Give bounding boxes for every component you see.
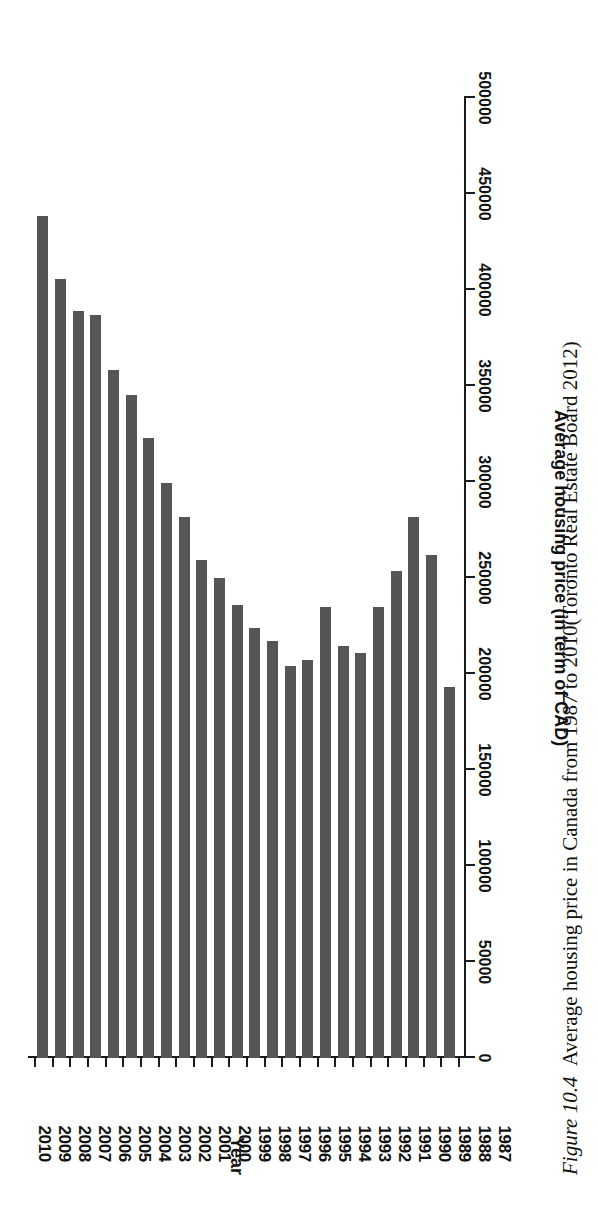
- year-tick: [87, 1058, 89, 1067]
- value-tick-150000: [466, 768, 475, 770]
- figure-caption: Figure 10.4 Average housing price in Can…: [544, 0, 596, 1209]
- bar-row: [405, 98, 423, 1058]
- bar-1990: [391, 571, 402, 1058]
- year-label-1988: 1988: [474, 1070, 494, 1170]
- bar-row: [211, 98, 229, 1058]
- caption-figure-number: Figure 10.4: [558, 1076, 582, 1174]
- figure-page: 2010200920082007200620052004200320022001…: [0, 0, 598, 1209]
- bar-2002: [179, 516, 190, 1057]
- year-label-1995: 1995: [334, 1070, 354, 1170]
- year-label-2004: 2004: [154, 1070, 174, 1170]
- bar-row: [34, 98, 52, 1058]
- bar-1993: [338, 645, 349, 1057]
- value-tick-300000: [466, 480, 475, 482]
- value-axis-labels: 0500001000001500002000002500003000003500…: [475, 98, 545, 1058]
- year-tick: [140, 1058, 142, 1067]
- value-label-0: 0: [475, 1053, 493, 1062]
- year-tick: [158, 1058, 160, 1067]
- bar-row: [281, 98, 299, 1058]
- year-label-2006: 2006: [114, 1070, 134, 1170]
- year-label-1992: 1992: [394, 1070, 414, 1170]
- year-label-1996: 1996: [314, 1070, 334, 1170]
- year-label-1997: 1997: [294, 1070, 314, 1170]
- year-label-1991: 1991: [414, 1070, 434, 1170]
- bar-1997: [267, 641, 278, 1058]
- year-tick: [458, 1058, 460, 1067]
- bar-2000: [214, 578, 225, 1058]
- bar-1988: [426, 555, 437, 1058]
- value-tick-100000: [466, 864, 475, 866]
- value-label-200000: 200000: [475, 647, 493, 700]
- year-tick: [105, 1058, 107, 1067]
- bar-row: [440, 98, 458, 1058]
- bar-1989: [408, 516, 419, 1057]
- bar-2005: [126, 394, 137, 1057]
- year-tick: [193, 1058, 195, 1067]
- bar-row: [69, 98, 87, 1058]
- year-tick: [52, 1058, 54, 1067]
- bar-row: [246, 98, 264, 1058]
- year-tick: [334, 1058, 336, 1067]
- value-tick-250000: [466, 576, 475, 578]
- plot-area: [34, 98, 458, 1058]
- year-label-1987: 1987: [494, 1070, 514, 1170]
- year-tick: [281, 1058, 283, 1067]
- bar-chart: 2010200920082007200620052004200320022001…: [28, 40, 498, 1170]
- year-label-1999: 1999: [254, 1070, 274, 1170]
- year-tick: [317, 1058, 319, 1067]
- year-tick: [352, 1058, 354, 1067]
- bar-2007: [90, 315, 101, 1058]
- value-tick-400000: [466, 288, 475, 290]
- bar-row: [52, 98, 70, 1058]
- bar-1991: [373, 607, 384, 1058]
- year-axis-title: Year: [226, 1056, 247, 1209]
- value-label-500000: 500000: [475, 71, 493, 124]
- bar-row: [140, 98, 158, 1058]
- year-tick: [175, 1058, 177, 1067]
- year-tick: [387, 1058, 389, 1067]
- bar-row: [334, 98, 352, 1058]
- year-label-2003: 2003: [174, 1070, 194, 1170]
- value-axis-ticks: [466, 98, 475, 1058]
- year-tick: [34, 1058, 36, 1067]
- value-tick-500000: [466, 96, 475, 98]
- bar-row: [387, 98, 405, 1058]
- bar-1996: [285, 666, 296, 1058]
- bar-2009: [55, 279, 66, 1058]
- bar-2006: [108, 369, 119, 1057]
- bar-1992: [355, 652, 366, 1057]
- year-label-2005: 2005: [134, 1070, 154, 1170]
- year-label-1993: 1993: [374, 1070, 394, 1170]
- value-tick-450000: [466, 192, 475, 194]
- bar-series: [34, 98, 458, 1058]
- value-label-450000: 450000: [475, 167, 493, 220]
- bar-2010: [37, 215, 48, 1057]
- bar-row: [158, 98, 176, 1058]
- bar-row: [193, 98, 211, 1058]
- value-label-300000: 300000: [475, 455, 493, 508]
- bar-2001: [196, 559, 207, 1057]
- bar-row: [228, 98, 246, 1058]
- year-tick: [69, 1058, 71, 1067]
- year-label-2009: 2009: [54, 1070, 74, 1170]
- bar-2004: [143, 437, 154, 1057]
- value-tick-0: [466, 1056, 475, 1058]
- bar-row: [87, 98, 105, 1058]
- bar-row: [370, 98, 388, 1058]
- year-tick: [211, 1058, 213, 1067]
- value-label-400000: 400000: [475, 263, 493, 316]
- bar-2008: [73, 310, 84, 1057]
- bar-row: [423, 98, 441, 1058]
- year-label-1989: 1989: [454, 1070, 474, 1170]
- value-label-50000: 50000: [475, 939, 493, 984]
- bar-row: [264, 98, 282, 1058]
- year-tick: [370, 1058, 372, 1067]
- bar-row: [122, 98, 140, 1058]
- year-label-2008: 2008: [74, 1070, 94, 1170]
- bar-1998: [249, 627, 260, 1057]
- value-tick-200000: [466, 672, 475, 674]
- year-tick: [423, 1058, 425, 1067]
- year-tick: [405, 1058, 407, 1067]
- year-label-1994: 1994: [354, 1070, 374, 1170]
- caption-body: Average housing price in Canada from 198…: [558, 341, 582, 1066]
